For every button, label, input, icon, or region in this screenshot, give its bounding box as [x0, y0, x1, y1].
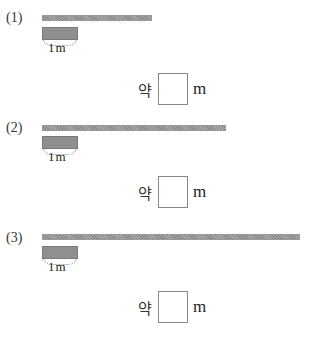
answer-unit: m: [193, 182, 206, 202]
one-meter-label: 1m: [48, 149, 67, 165]
approx-label: 약: [138, 79, 152, 100]
answer-row: 약 m: [138, 175, 206, 209]
answer-unit: m: [193, 297, 206, 317]
problem-number: (2): [6, 120, 22, 136]
answer-input-box[interactable]: [158, 73, 188, 105]
answer-input-box[interactable]: [158, 291, 188, 323]
answer-input-box[interactable]: [158, 176, 188, 208]
one-meter-label: 1m: [48, 40, 67, 56]
length-bar: [42, 234, 300, 240]
answer-unit: m: [193, 79, 206, 99]
length-bar: [42, 15, 152, 21]
one-meter-label: 1m: [48, 259, 67, 275]
answer-row: 약 m: [138, 290, 206, 324]
problem-number: (1): [6, 10, 22, 26]
approx-label: 약: [138, 297, 152, 318]
approx-label: 약: [138, 182, 152, 203]
length-bar: [42, 125, 226, 131]
answer-row: 약 m: [138, 72, 206, 106]
problem-number: (3): [6, 230, 22, 246]
